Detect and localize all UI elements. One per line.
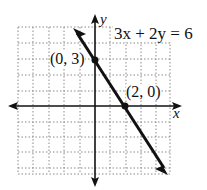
point-label-x-intercept: (2, 0) [126,84,161,100]
point-0-3 [92,57,99,64]
point-2-0 [122,103,129,110]
x-axis-label: x [173,106,180,121]
point-label-y-intercept: (0, 3) [50,51,85,67]
y-axis-label: y [100,12,107,27]
equation-label: 3x + 2y = 6 [113,25,194,42]
grid [18,27,170,174]
graph-line [77,33,164,168]
line-upper-arrow-icon [73,28,86,42]
